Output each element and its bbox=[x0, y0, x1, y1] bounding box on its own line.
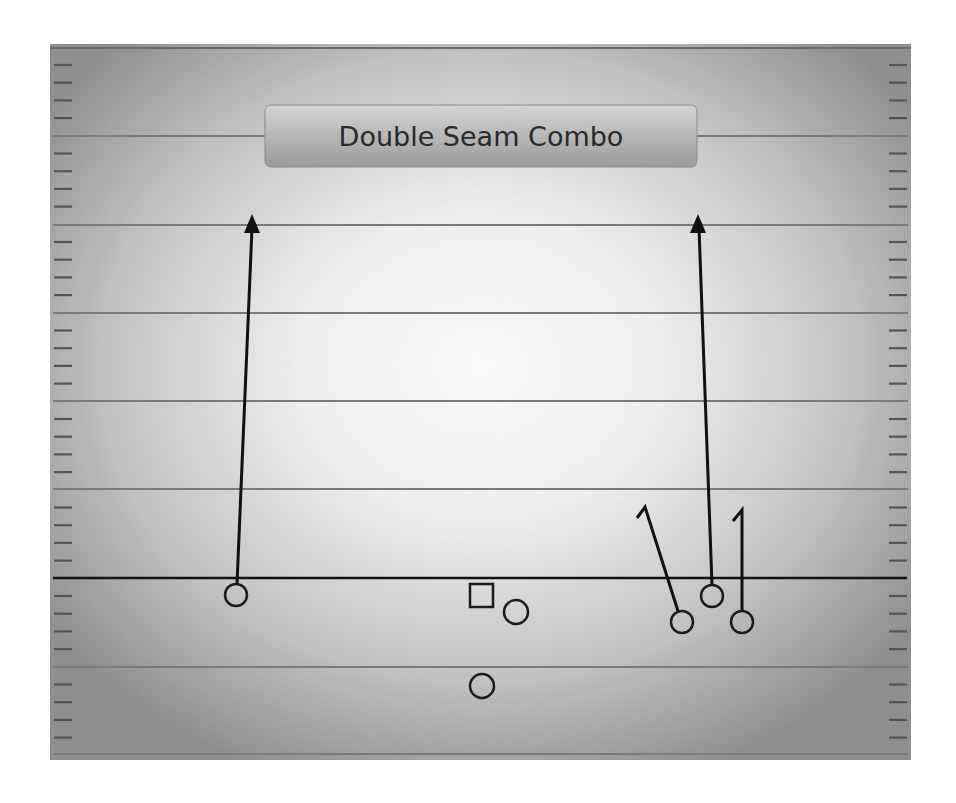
title-box: Double Seam Combo bbox=[265, 105, 697, 167]
play-diagram: Double Seam Combo bbox=[0, 0, 956, 803]
play-title: Double Seam Combo bbox=[339, 121, 624, 152]
